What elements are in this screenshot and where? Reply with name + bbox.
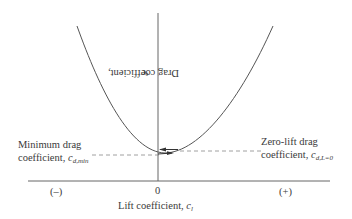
x-positive-label: (+) bbox=[279, 186, 292, 198]
x-negative-label: (–) bbox=[50, 186, 62, 198]
min-drag-label: Minimum drag coefficient, cd,min bbox=[18, 139, 88, 167]
drag-polar-curve bbox=[77, 26, 273, 153]
zero-lift-arrowhead-icon bbox=[159, 148, 166, 152]
min-drag-label-line1: Minimum drag bbox=[18, 139, 88, 151]
y-axis-label: Drag coefficient, cd bbox=[136, 14, 150, 134]
min-drag-label-line2: coefficient, cd,min bbox=[18, 152, 88, 167]
zero-lift-label-line2: coefficient, cd,L=0 bbox=[261, 149, 333, 164]
zero-lift-drag-label: Zero-lift drag coefficient, cd,L=0 bbox=[261, 136, 333, 164]
x-axis-label: Lift coefficient, cl bbox=[118, 200, 193, 215]
x-origin-label: 0 bbox=[155, 185, 160, 197]
zero-lift-label-line1: Zero-lift drag bbox=[261, 136, 333, 148]
